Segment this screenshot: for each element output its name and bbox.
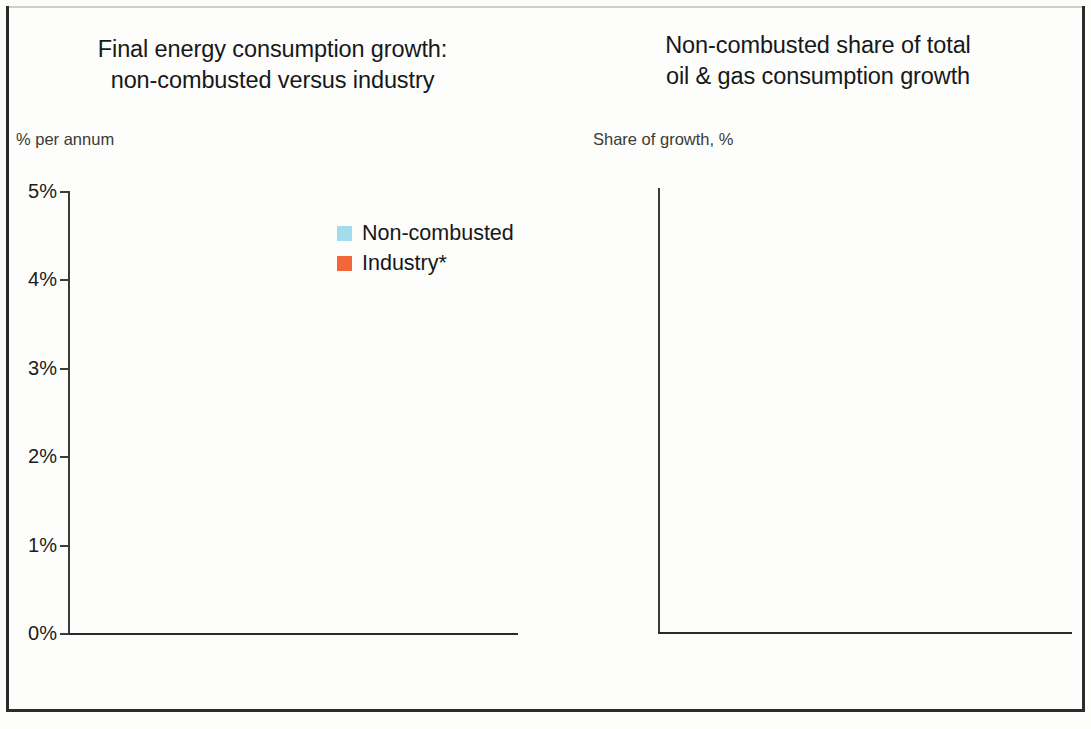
right-x-axis-line bbox=[658, 632, 1072, 634]
left-chart-title-line2: non-combusted versus industry bbox=[0, 65, 545, 96]
legend-item-industry: Industry* bbox=[337, 248, 514, 278]
y-tick bbox=[60, 633, 69, 635]
right-bar-group-container bbox=[660, 188, 1072, 632]
legend-swatch-industry-icon bbox=[337, 256, 352, 271]
y-tick-label: 4% bbox=[28, 268, 57, 291]
y-tick-label: 5% bbox=[28, 180, 57, 203]
legend-label-non-combusted: Non-combusted bbox=[362, 221, 514, 246]
y-tick bbox=[60, 368, 69, 370]
left-chart-title: Final energy consumption growth: non-com… bbox=[0, 34, 545, 96]
legend-label-industry: Industry* bbox=[362, 251, 447, 276]
y-tick-label: 0% bbox=[28, 622, 57, 645]
left-chart-legend: Non-combusted Industry* bbox=[337, 218, 514, 278]
legend-item-non-combusted: Non-combusted bbox=[337, 218, 514, 248]
y-tick-label: 3% bbox=[28, 356, 57, 379]
right-chart-title-line2: oil & gas consumption growth bbox=[545, 61, 1091, 92]
y-tick bbox=[60, 545, 69, 547]
y-tick-label: 2% bbox=[28, 445, 57, 468]
left-x-axis-line bbox=[68, 633, 518, 635]
right-chart-title-line1: Non-combusted share of total bbox=[545, 30, 1091, 61]
y-tick bbox=[60, 279, 69, 281]
figure-root: Final energy consumption growth: non-com… bbox=[0, 0, 1091, 729]
legend-swatch-non-combusted-icon bbox=[337, 226, 352, 241]
y-tick bbox=[60, 456, 69, 458]
y-tick bbox=[60, 191, 69, 193]
right-chart-title: Non-combusted share of total oil & gas c… bbox=[545, 30, 1091, 92]
left-chart-title-line1: Final energy consumption growth: bbox=[0, 34, 545, 65]
right-plot-area bbox=[658, 188, 1072, 634]
left-chart-panel: Final energy consumption growth: non-com… bbox=[0, 0, 545, 729]
right-y-axis-caption: Share of growth, % bbox=[593, 130, 733, 149]
left-y-axis-caption: % per annum bbox=[16, 130, 114, 149]
y-tick-label: 1% bbox=[28, 533, 57, 556]
